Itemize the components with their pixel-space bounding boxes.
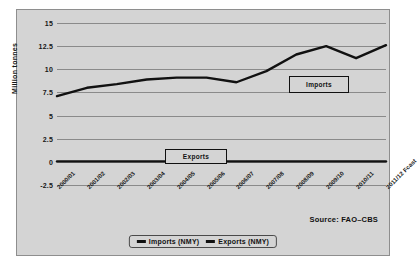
y-axis-tick: 7.5 (43, 89, 53, 96)
legend-label-exports: Exports (NMY) (218, 238, 269, 245)
y-axis-tick: 15 (45, 20, 53, 27)
y-axis-tick: 0 (49, 158, 53, 165)
imports-annotation-label: Imports (306, 81, 332, 88)
legend-item-imports: Imports (NMY) (137, 238, 199, 245)
exports-annotation-box: Exports (165, 149, 227, 164)
imports-annotation-box: Imports (289, 76, 349, 93)
y-axis-tick: 10 (45, 66, 53, 73)
y-axis-tick-labels: 1512.5107.552.50-2.5 (33, 23, 53, 185)
y-axis-tick: 5 (49, 112, 53, 119)
legend-swatch-exports (206, 240, 215, 242)
x-axis-tick: 2011/12 Fcast (385, 158, 418, 191)
y-axis-tick: -2.5 (40, 182, 53, 189)
chart-legend: Imports (NMY) Exports (NMY) (129, 235, 277, 248)
y-axis-tick: 2.5 (43, 135, 53, 142)
legend-swatch-imports (137, 240, 146, 242)
y-axis-tick: 12.5 (39, 43, 53, 50)
legend-label-imports: Imports (NMY) (149, 238, 199, 245)
exports-annotation-label: Exports (183, 153, 209, 160)
legend-item-exports: Exports (NMY) (206, 238, 269, 245)
y-axis-title: Million tonnes (11, 43, 18, 94)
source-note: Source: FAO–CBS (310, 215, 378, 224)
chart-panel: Million tonnes 1512.5107.552.50-2.5 2000… (16, 9, 390, 256)
